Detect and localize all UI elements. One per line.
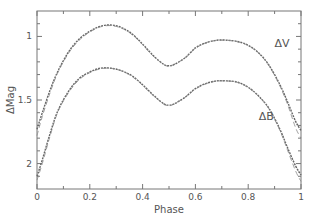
- series-labels: ΔVΔB: [259, 37, 290, 124]
- y-axis-title: ΔMag: [5, 86, 16, 114]
- plot-frame: [37, 11, 301, 189]
- y-tick-labels: 11.52: [18, 31, 32, 168]
- x-axis-title: Phase: [154, 204, 184, 215]
- series-label-v: ΔV: [275, 37, 291, 50]
- x-tick-label: 0.8: [241, 192, 256, 202]
- x-tick-label: 1: [298, 192, 304, 202]
- model-curve-b: [37, 68, 301, 181]
- series-label-b: ΔB: [259, 110, 274, 123]
- x-tick-label: 0.4: [135, 192, 150, 202]
- x-tick-label: 0: [34, 192, 40, 202]
- x-tick-labels: 00.20.40.60.81: [34, 192, 304, 202]
- axis-ticks: [37, 11, 301, 189]
- y-tick-label: 2: [26, 159, 32, 169]
- series-curves: [37, 25, 301, 181]
- x-tick-label: 0.6: [188, 192, 203, 202]
- y-tick-label: 1.5: [18, 95, 32, 105]
- x-tick-label: 0.2: [83, 192, 97, 202]
- y-tick-label: 1: [26, 31, 32, 41]
- light-curve-chart: 00.20.40.60.81 11.52 ΔVΔB Phase ΔMag: [0, 0, 313, 218]
